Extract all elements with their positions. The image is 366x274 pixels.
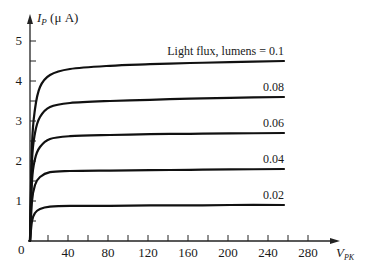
curve-label: 0.08 bbox=[263, 80, 284, 94]
y-tick-label: 5 bbox=[16, 33, 23, 48]
curve-label: Light flux, lumens = 0.1 bbox=[167, 44, 284, 58]
y-tick-label: 1 bbox=[16, 193, 23, 208]
y-tick-label: 2 bbox=[16, 153, 23, 168]
x-tick-label: 280 bbox=[298, 245, 318, 260]
curve-0-06 bbox=[30, 133, 284, 241]
curve-label: 0.04 bbox=[263, 152, 284, 166]
curve-label: 0.06 bbox=[263, 116, 284, 130]
photocurrent-chart: 4080120160200240280 12345 0 IP (μ A) VPK… bbox=[0, 0, 366, 274]
curves bbox=[30, 61, 284, 241]
x-tick-label: 200 bbox=[218, 245, 238, 260]
x-tick-label: 160 bbox=[178, 245, 198, 260]
x-tick-label: 240 bbox=[258, 245, 278, 260]
x-tick-label: 40 bbox=[62, 245, 75, 260]
x-tick-label: 80 bbox=[102, 245, 115, 260]
origin-label: 0 bbox=[18, 242, 25, 257]
x-tick-labels: 4080120160200240280 bbox=[62, 245, 318, 260]
x-ticks bbox=[48, 235, 308, 241]
curve-light-flux-lumens-0-1 bbox=[30, 61, 284, 241]
curve-label: 0.02 bbox=[263, 188, 284, 202]
y-axis-title: IP (μ A) bbox=[36, 10, 78, 27]
x-axis-arrow-icon bbox=[330, 238, 340, 244]
y-tick-label: 4 bbox=[16, 73, 23, 88]
x-axis-title: VPK bbox=[336, 245, 355, 262]
y-axis-arrow-icon bbox=[27, 14, 33, 24]
curve-labels: Light flux, lumens = 0.10.080.060.040.02 bbox=[167, 44, 284, 202]
y-tick-labels: 12345 bbox=[16, 33, 23, 208]
x-tick-label: 120 bbox=[138, 245, 158, 260]
y-tick-label: 3 bbox=[16, 113, 23, 128]
